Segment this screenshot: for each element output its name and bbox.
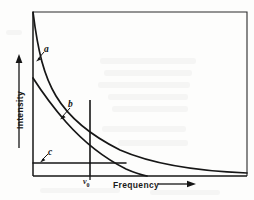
figure-drawing xyxy=(0,0,254,200)
curve-label-b: b xyxy=(68,99,73,109)
x-tick-label-nu0-subscript: 0 xyxy=(87,182,90,188)
curve-a xyxy=(33,12,247,173)
curve-label-a: a xyxy=(44,44,49,54)
leader-line-c xyxy=(40,154,48,163)
y-axis-label: Intensity xyxy=(15,80,25,140)
x-tick-label-nu0: ν0 xyxy=(83,177,90,188)
x-axis-arrow xyxy=(158,181,196,187)
figure-container: Intensity Frequency a b c ν0 xyxy=(0,0,254,200)
plot-frame-border xyxy=(33,12,247,176)
x-axis-label: Frequency xyxy=(113,180,159,190)
curve-label-c: c xyxy=(48,147,52,157)
